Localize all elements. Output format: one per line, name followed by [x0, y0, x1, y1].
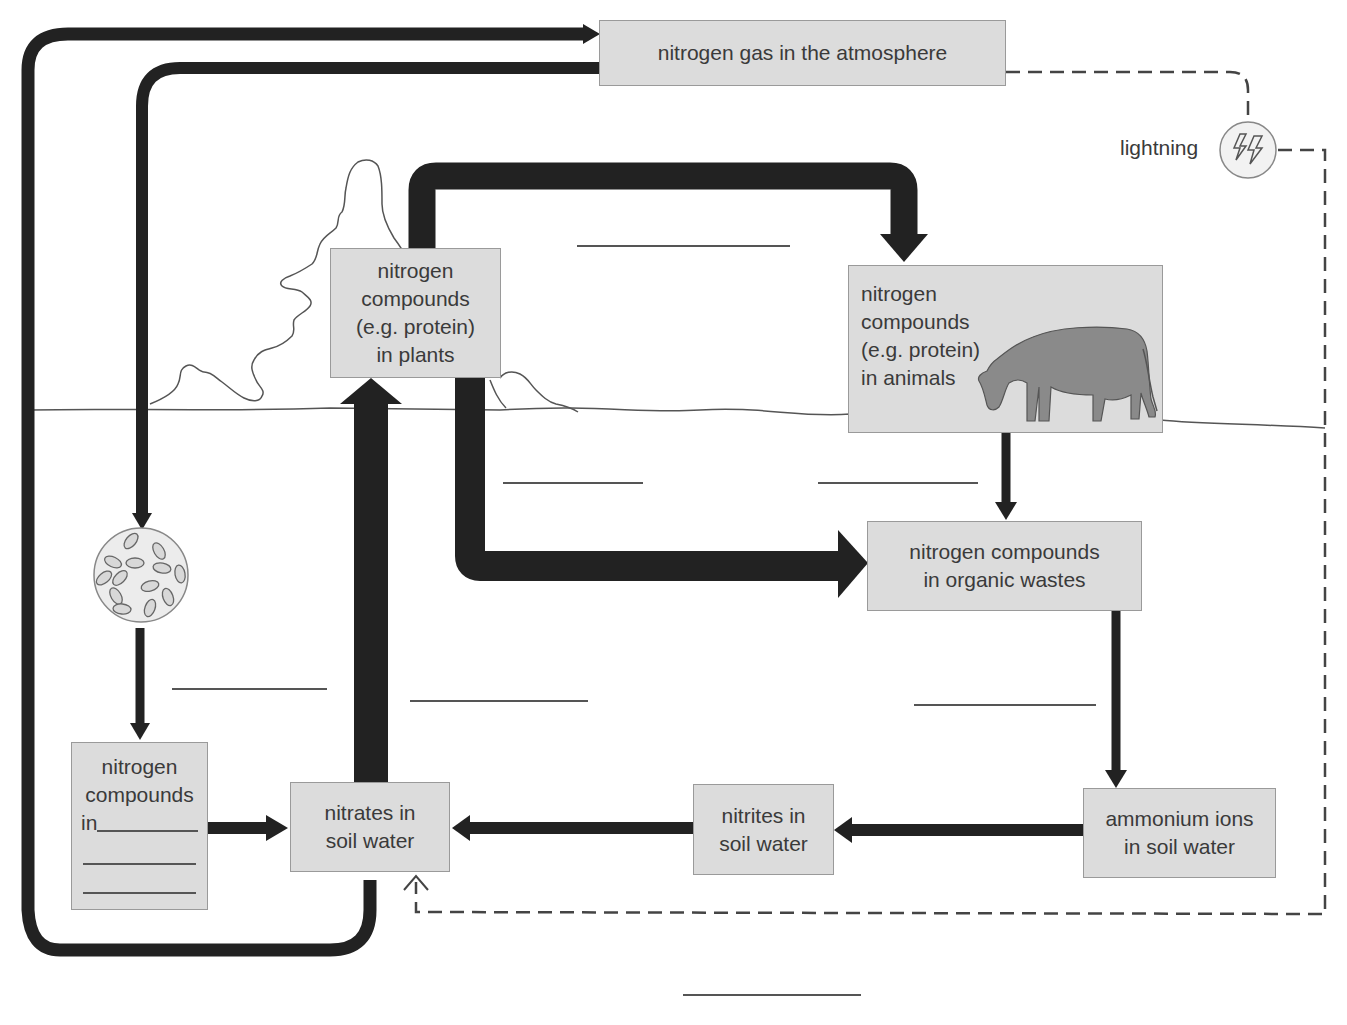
arrow-plants-to-animals — [422, 176, 904, 248]
node-plants: nitrogen compounds (e.g. protein) in pla… — [330, 248, 501, 378]
node-nitrites: nitrites in soil water — [693, 784, 834, 875]
node-animals-line-1: nitrogen — [861, 280, 937, 308]
node-animals-line-3: (e.g. protein) — [861, 336, 980, 364]
lightning-label: lightning — [1120, 136, 1198, 160]
node-wastes-line-1: nitrogen compounds — [909, 538, 1099, 566]
node-plants-line-1: nitrogen — [378, 257, 454, 285]
blank-animals-to-wastes[interactable] — [818, 482, 978, 484]
node-fixed-line-3-row: in — [81, 809, 198, 837]
blank-answer-line-1[interactable] — [97, 830, 198, 832]
blank-nitrates-to-atmosphere[interactable] — [683, 994, 861, 996]
node-nitrates-line-2: soil water — [326, 827, 415, 855]
bacteria-icon — [94, 528, 188, 622]
node-plants-line-3: (e.g. protein) — [356, 313, 475, 341]
blank-nitrates-to-plants[interactable] — [410, 700, 588, 702]
node-ammonium-line-1: ammonium ions — [1105, 805, 1253, 833]
blank-plants-to-animals[interactable] — [577, 245, 790, 247]
node-nitrates: nitrates in soil water — [290, 782, 450, 872]
lightning-icon — [1220, 122, 1276, 178]
node-atmosphere: nitrogen gas in the atmosphere — [599, 20, 1006, 86]
node-ammonium: ammonium ions in soil water — [1083, 788, 1276, 878]
blank-wastes-to-ammonium[interactable] — [914, 704, 1096, 706]
node-fixed-line-2: compounds — [85, 781, 194, 809]
node-nitrites-line-1: nitrites in — [721, 802, 805, 830]
blank-plants-to-wastes[interactable] — [503, 482, 643, 484]
dashed-path-lightning — [1006, 72, 1248, 120]
node-organic-wastes: nitrogen compounds in organic wastes — [867, 521, 1142, 611]
node-atmosphere-text: nitrogen gas in the atmosphere — [658, 39, 948, 67]
node-animals-line-4: in animals — [861, 364, 956, 392]
node-wastes-line-2: in organic wastes — [923, 566, 1085, 594]
arrow-plants-to-wastes — [470, 378, 840, 566]
node-nitrates-line-1: nitrates in — [324, 799, 415, 827]
node-fixed-line-1: nitrogen — [102, 753, 178, 781]
blank-answer-line-2[interactable] — [83, 863, 196, 865]
shrub-outline-icon — [500, 372, 578, 412]
node-animals-line-2: compounds — [861, 308, 970, 336]
node-ammonium-line-2: in soil water — [1124, 833, 1235, 861]
blank-answer-line-3[interactable] — [83, 892, 196, 894]
blank-bacteria-to-compounds[interactable] — [172, 688, 327, 690]
node-fixed-line-3: in — [81, 809, 97, 837]
node-fixed-compounds: nitrogen compounds in — [71, 742, 208, 910]
node-plants-line-4: in plants — [376, 341, 454, 369]
node-plants-line-2: compounds — [361, 285, 470, 313]
node-nitrites-line-2: soil water — [719, 830, 808, 858]
cow-icon — [977, 321, 1162, 431]
node-animals: nitrogen compounds (e.g. protein) in ani… — [848, 265, 1163, 433]
